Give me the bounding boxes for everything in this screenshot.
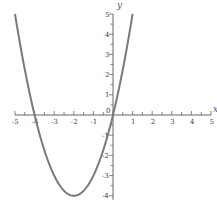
y-tick-label: 5: [105, 11, 109, 19]
origin-label: 0: [106, 107, 110, 115]
x-tick-label: -1: [90, 118, 97, 126]
x-tick-label: -3: [51, 118, 58, 126]
parabola-curve: [15, 14, 133, 196]
function-plot: -5-4-3-2-1123450-4-3-2-112345 y x: [0, 0, 217, 203]
y-tick-label: -4: [102, 192, 109, 200]
x-tick-label: -5: [12, 118, 19, 126]
x-tick-label: 3: [170, 118, 174, 126]
x-tick-label: 4: [190, 118, 195, 126]
y-axis-label: y: [116, 0, 123, 10]
x-tick-label: -2: [71, 118, 78, 126]
y-tick-label: 3: [105, 51, 109, 59]
y-tick-label: 2: [105, 71, 109, 79]
x-tick-label: 5: [210, 118, 214, 126]
axes: [15, 14, 211, 200]
x-tick-label: 1: [131, 118, 135, 126]
y-tick-label: 1: [105, 91, 109, 99]
y-tick-label: 4: [105, 31, 110, 39]
x-axis-label: x: [213, 104, 217, 114]
x-tick-label: 2: [151, 118, 155, 126]
y-tick-label: -3: [102, 172, 109, 180]
